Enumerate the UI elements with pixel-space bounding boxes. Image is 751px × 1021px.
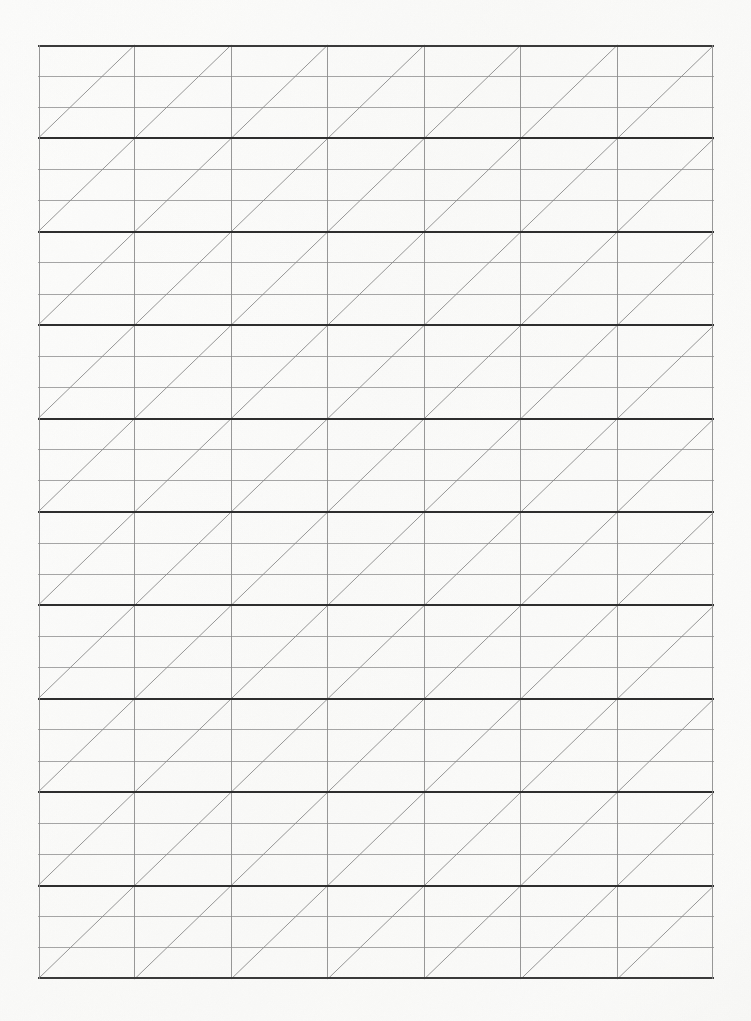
cell-diagonal-rule [521, 605, 618, 698]
cell-diagonal-rule [38, 792, 135, 885]
cell-diagonal-rule [617, 232, 714, 325]
cell-diagonal-rule [38, 232, 135, 325]
cell-diagonal-rule [521, 419, 618, 512]
cell-diagonal-rule [135, 886, 232, 979]
cell-diagonal-rule [135, 325, 232, 418]
cell-diagonal-rule [424, 792, 521, 885]
cell-diagonal-rule [328, 792, 425, 885]
cell-diagonal-rule [231, 699, 328, 792]
cell-diagonal-rule [328, 605, 425, 698]
cell-diagonal-rule [521, 138, 618, 231]
cell-diagonal-rule [424, 605, 521, 698]
cell-diagonal-rule [424, 138, 521, 231]
cell-diagonal-rule [328, 699, 425, 792]
cell-diagonal-rule [38, 325, 135, 418]
cell-diagonal-rule [521, 512, 618, 605]
cell-diagonal-rule [617, 325, 714, 418]
cell-diagonal-rule [617, 419, 714, 512]
cell-diagonal-rule [38, 138, 135, 231]
cell-diagonal-rule [135, 419, 232, 512]
cell-diagonal-rule [617, 792, 714, 885]
cell-diagonal-rule [617, 605, 714, 698]
ruled-grid [38, 45, 714, 979]
cell-diagonal-rule [135, 605, 232, 698]
cell-diagonal-rule [135, 45, 232, 138]
cell-diagonal-rule [135, 792, 232, 885]
cell-diagonal-rule [328, 325, 425, 418]
cell-diagonal-rule [231, 138, 328, 231]
cell-diagonal-rule [38, 45, 135, 138]
cell-diagonal-rule [38, 886, 135, 979]
cell-diagonal-rule [424, 419, 521, 512]
cell-diagonal-rule [521, 325, 618, 418]
cell-diagonal-rule [424, 45, 521, 138]
cell-diagonal-rule [521, 699, 618, 792]
cell-diagonal-rule [328, 512, 425, 605]
cell-diagonal-rule [38, 605, 135, 698]
cell-diagonal-rule [231, 512, 328, 605]
cell-diagonal-rule [38, 419, 135, 512]
cell-diagonal-rule [231, 419, 328, 512]
cell-diagonal-rule [231, 792, 328, 885]
cell-diagonal-rule [521, 792, 618, 885]
cell-diagonal-rule [38, 512, 135, 605]
cell-diagonal-rule [424, 512, 521, 605]
cell-diagonal-rule [328, 138, 425, 231]
cell-diagonal-rule [38, 699, 135, 792]
cell-diagonal-rule [328, 886, 425, 979]
cell-diagonal-rule [231, 45, 328, 138]
cell-diagonal-rule [231, 232, 328, 325]
cell-diagonal-rule [231, 886, 328, 979]
cell-diagonal-rule [231, 325, 328, 418]
cell-diagonal-rule [521, 45, 618, 138]
cell-diagonal-rule [521, 232, 618, 325]
cell-diagonal-rule [424, 325, 521, 418]
grid-lines [38, 45, 714, 979]
cell-diagonal-rule [521, 886, 618, 979]
cell-diagonal-rule [617, 512, 714, 605]
cell-diagonal-rule [424, 699, 521, 792]
cell-diagonal-rule [617, 886, 714, 979]
cell-diagonal-rule [135, 138, 232, 231]
cell-diagonal-rule [617, 699, 714, 792]
cell-diagonal-rule [231, 605, 328, 698]
paper-sheet [0, 0, 751, 1021]
cell-diagonal-rule [328, 45, 425, 138]
cell-diagonal-rule [617, 45, 714, 138]
cell-diagonal-rule [328, 232, 425, 325]
cell-diagonal-rule [424, 232, 521, 325]
cell-diagonal-rule [135, 512, 232, 605]
cell-diagonal-rule [328, 419, 425, 512]
cell-diagonal-rule [135, 232, 232, 325]
cell-diagonal-rule [424, 886, 521, 979]
cell-diagonal-rule [617, 138, 714, 231]
cell-diagonal-rule [135, 699, 232, 792]
